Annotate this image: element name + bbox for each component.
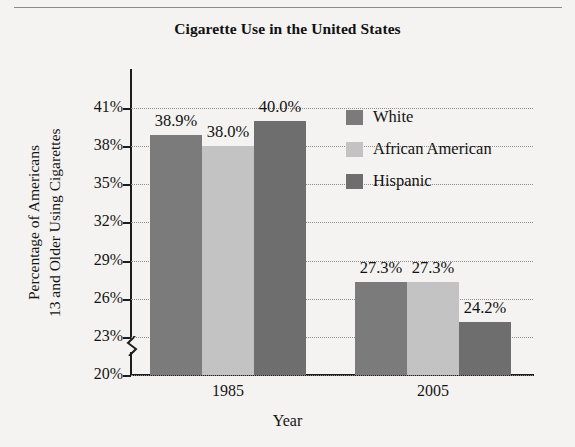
legend-label: White	[373, 107, 413, 127]
y-axis-tick	[123, 146, 131, 148]
x-axis-tick-label: 1985	[188, 382, 268, 400]
chart-figure: Cigarette Use in the United States Perce…	[0, 0, 575, 447]
y-axis-tick	[123, 261, 131, 263]
legend-label: Hispanic	[373, 171, 432, 191]
legend-swatch-icon	[346, 142, 363, 157]
y-axis-tick-label: 32%	[59, 212, 123, 230]
y-axis-tick-label: 29%	[59, 251, 123, 269]
chart-legend: WhiteAfrican AmericanHispanic	[346, 104, 536, 200]
y-axis-tick-label: 20%	[59, 365, 123, 383]
x-axis-label: Year	[0, 412, 575, 430]
y-axis-tick	[123, 184, 131, 186]
y-axis-tick	[123, 337, 131, 339]
y-axis-tick	[123, 222, 131, 224]
y-axis-tick-label: 35%	[59, 174, 123, 192]
legend-swatch-icon	[346, 174, 363, 189]
bar-african-american-2005	[407, 282, 459, 375]
legend-swatch-icon	[346, 110, 363, 125]
bar-hispanic-1985	[254, 121, 306, 375]
bar-value-label: 40.0%	[244, 97, 316, 117]
header-divider	[14, 7, 562, 8]
bar-hispanic-2005	[459, 322, 511, 375]
y-axis-tick-label: 41%	[59, 98, 123, 116]
y-axis-tick	[123, 375, 131, 377]
y-axis-tick	[123, 299, 131, 301]
y-axis-tick-label: 23%	[59, 327, 123, 345]
chart-title: Cigarette Use in the United States	[0, 20, 575, 38]
legend-item-african-american: African American	[346, 136, 536, 162]
bar-white-1985	[150, 135, 202, 375]
bar-white-2005	[355, 282, 407, 375]
legend-item-hispanic: Hispanic	[346, 168, 536, 194]
x-axis-tick-label: 2005	[393, 382, 473, 400]
bar-value-label: 27.3%	[397, 258, 469, 278]
y-axis-label-line-1: Percentage of Americans	[26, 78, 42, 368]
bar-african-american-1985	[202, 146, 254, 375]
bar-value-label: 24.2%	[449, 298, 521, 318]
legend-label: African American	[373, 139, 492, 159]
legend-item-white: White	[346, 104, 536, 130]
y-axis-tick-label: 26%	[59, 289, 123, 307]
y-axis-tick	[123, 108, 131, 110]
gridline	[131, 375, 533, 376]
y-axis-tick-label: 38%	[59, 136, 123, 154]
